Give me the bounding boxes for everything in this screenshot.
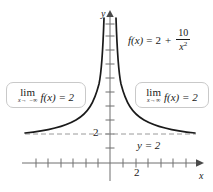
function-label-plus: + (165, 35, 171, 46)
denominator-exponent: 2 (184, 40, 188, 48)
x-axis-label: x (199, 171, 203, 181)
x-axis-arrowhead (196, 159, 204, 167)
limit-right-expression: lim x→∞ f(x) = 2 (146, 86, 197, 103)
limit-right-body: f(x) = 2 (164, 91, 198, 103)
asymptote-label: y = 2 (137, 140, 160, 151)
function-label-constant: 2 (155, 35, 161, 46)
limit-callout-right: lim x→∞ f(x) = 2 (135, 82, 209, 108)
limit-left-operator-group: lim x→ −∞ (18, 86, 38, 103)
limit-left-subscript: x→ −∞ (18, 97, 38, 103)
x-axis-tick-label-2: 2 (134, 167, 140, 178)
y-axis-label: y (101, 9, 105, 19)
limit-graph-figure: f(x) = 2 + 10 x2 lim x→ −∞ f(x) = 2 lim … (0, 0, 213, 192)
function-label-lhs: f(x) (128, 35, 143, 46)
limit-left-body: f(x) = 2 (40, 91, 74, 103)
limit-right-subscript: x→∞ (147, 97, 161, 103)
y-axis-arrowhead (106, 10, 113, 17)
fraction-numerator: 10 (176, 28, 190, 39)
limit-left-expression: lim x→ −∞ f(x) = 2 (18, 86, 74, 103)
y-axis-tick-label-2: 2 (93, 127, 99, 138)
limit-right-operator-group: lim x→∞ (146, 86, 161, 103)
function-label-fraction: 10 x2 (176, 28, 190, 52)
fraction-denominator: x2 (177, 40, 189, 52)
function-label-equals: = (146, 35, 152, 46)
curve-left-branch (25, 18, 104, 133)
limit-callout-left: lim x→ −∞ f(x) = 2 (6, 82, 86, 108)
function-label: f(x) = 2 + 10 x2 (128, 28, 190, 52)
